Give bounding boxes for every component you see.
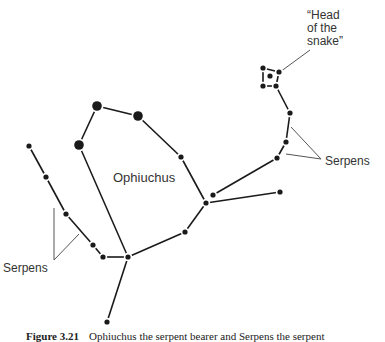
star-small (267, 73, 272, 78)
constellation-line (185, 203, 206, 232)
constellation-line (79, 145, 128, 257)
star-small (90, 242, 95, 247)
constellation-line (66, 214, 93, 245)
star-small (63, 211, 68, 216)
constellation-line (286, 113, 290, 142)
constellation-line (107, 257, 128, 322)
star-small (287, 110, 292, 115)
serpens-right-label: Serpens (325, 155, 370, 168)
star-small (210, 192, 215, 197)
star-small (26, 143, 31, 148)
head-of-snake-label: “Head of the snake” (307, 9, 343, 48)
ophiuchus-label: Ophiuchus (113, 171, 175, 184)
constellation-line (46, 177, 66, 214)
star-small (203, 200, 208, 205)
constellation-line (29, 146, 46, 177)
constellation-line (128, 232, 185, 257)
star-small (100, 254, 105, 259)
constellation-line (138, 116, 181, 157)
stars (25, 64, 294, 326)
star-small (260, 83, 265, 88)
constellation-lines (29, 68, 290, 322)
star-bright (133, 111, 143, 121)
star-small (274, 155, 279, 160)
constellation-line (181, 157, 206, 203)
constellation-line (276, 86, 290, 113)
star-small (125, 254, 130, 259)
constellation-line (213, 158, 277, 195)
star-small (178, 154, 183, 159)
star-bright (74, 140, 84, 150)
star-small (277, 189, 282, 194)
figure-caption: Figure 3.21Ophiuchus the serpent bearer … (26, 330, 324, 342)
figure-number: Figure 3.21 (26, 330, 79, 342)
serpens-left-label: Serpens (3, 262, 48, 275)
star-small (283, 139, 288, 144)
pointer-line (286, 154, 321, 159)
star-small (104, 319, 109, 324)
star-small (43, 174, 48, 179)
figure-caption-text: Ophiuchus the serpent bearer and Serpens… (89, 330, 325, 342)
pointer-line (54, 234, 79, 260)
star-small (182, 229, 187, 234)
star-small (260, 65, 265, 70)
star-small (276, 69, 281, 74)
pointer-line (280, 50, 310, 72)
star-bright (92, 101, 102, 111)
constellation-line (206, 192, 280, 203)
pointer-line (291, 127, 321, 159)
star-small (273, 83, 278, 88)
